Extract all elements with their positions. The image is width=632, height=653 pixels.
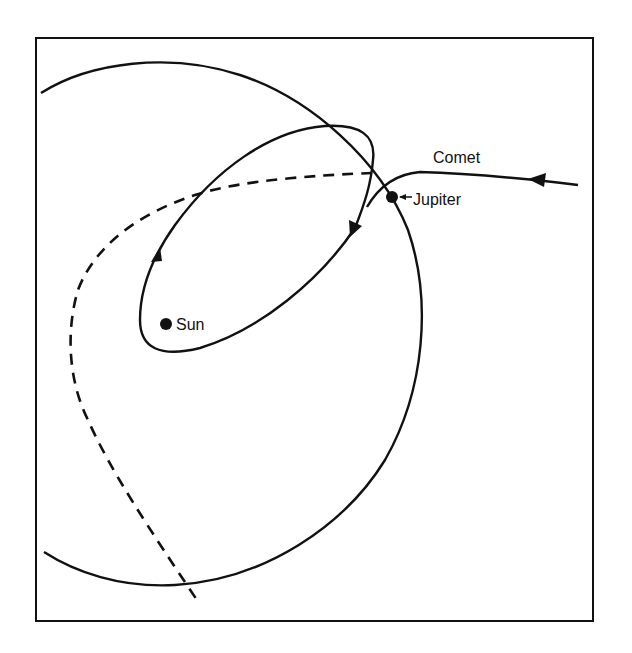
ellipse-down-arrow-icon [349,220,362,237]
comet-label: Comet [433,149,481,166]
incoming-direction-arrow-icon [528,173,546,187]
sun-label: Sun [176,316,204,333]
comet-capture-diagram: Jupiter Comet Sun [0,0,632,653]
captured-comet-orbit [140,126,373,352]
jupiter-pointer-arrow-icon [399,194,406,200]
jupiter-orbit [41,62,422,585]
original-comet-path [71,173,372,603]
jupiter-dot [386,191,398,203]
jupiter-label: Jupiter [413,191,462,208]
incoming-comet-path [367,172,578,207]
sun-dot [160,318,172,330]
